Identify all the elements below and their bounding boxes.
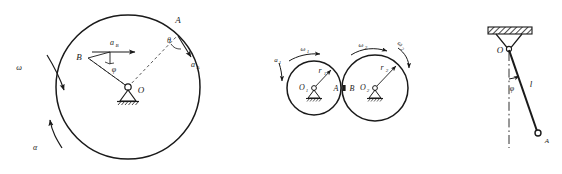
support-triangle-o1 [308,90,320,98]
pendulum-bob [535,130,541,136]
support-triangle-o2 [369,90,381,98]
label-omega-1-subscript: 1 [307,49,310,54]
label-omega: ω [16,63,22,72]
label-center-o2-subscript: 2 [367,88,370,93]
label-point-b: B [76,52,82,62]
figure-b-group: ω 1 ω 2 ω 2 a 1 r 1 r 2 [274,39,409,121]
label-accel-b-subscript: B [115,43,118,48]
label-acceleration-b: a B [110,38,119,48]
omega-1-arrow [289,54,320,61]
label-center-o1-base: O [299,83,305,92]
label-accel-left-base: a [274,56,278,64]
ceiling-hatched-block [488,27,532,34]
label-rod-length: l [530,79,533,89]
label-radius-2-subscript: 2 [386,68,389,73]
label-omega-1: ω 1 [301,45,310,55]
label-radius-2-base: r [380,63,384,72]
label-omega-2-subscript: 2 [365,45,368,50]
label-omega-3: ω 2 [395,39,408,52]
figures-canvas: A B O θ φ ω α a A a B [0,0,562,174]
figure-sheet: A B O θ φ ω α a A a B [0,0,562,174]
support-triangle-o [120,90,136,101]
label-omega-1-base: ω [301,45,306,53]
figure-a-group: A B O θ φ ω α a A a B [16,15,200,159]
label-angle-theta: θ [167,36,171,45]
label-angle-phi: φ [112,65,117,74]
acceleration-vector-a [178,36,191,57]
angle-phi-arc [105,62,114,64]
label-point-b-wheel: B [350,84,355,93]
label-pivot-o: O [497,45,504,55]
label-bob-a: A [544,137,550,145]
label-center-o1: O 1 [299,83,308,93]
label-alpha: α [33,143,38,152]
radius-1-arrow [314,70,331,88]
label-point-a: A [174,15,181,25]
label-radius-1-subscript: 1 [324,71,327,76]
label-center-o1-subscript: 1 [306,88,309,93]
label-radius-1-base: r [318,66,322,75]
label-angle-phi-pendulum: φ [510,84,515,93]
omega-2-arrow [351,49,387,55]
label-omega-2-base: ω [359,41,364,49]
label-center-o: O [138,85,145,95]
line-b-to-o [88,58,128,87]
label-accel-left-subscript: 1 [279,60,282,65]
label-accel-a-base: a [191,60,195,69]
label-radius-1: r 1 [318,66,326,76]
label-radius-2: r 2 [380,63,388,73]
alpha-curved-arrow [50,120,62,148]
figure-c-group: O l φ A [488,27,550,148]
label-omega-2: ω 2 [359,41,368,51]
label-center-o2-base: O [360,83,366,92]
acceleration-left-arrow [279,63,282,81]
angle-theta-arc [171,44,181,49]
contact-point-marker [343,85,346,91]
vector-b-tail-line [88,52,110,58]
label-acceleration-left: a 1 [274,56,281,66]
label-accel-a-subscript: A [195,65,200,70]
label-center-o2: O 2 [360,83,370,93]
label-accel-b-base: a [110,38,114,47]
label-point-a-wheel: A [333,84,339,93]
